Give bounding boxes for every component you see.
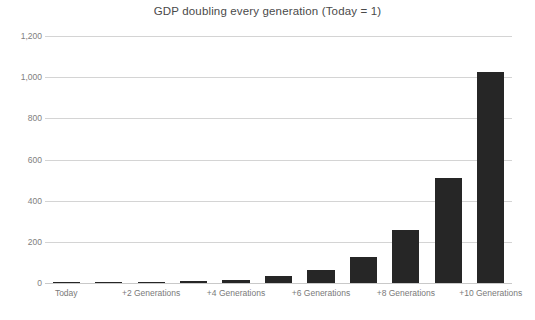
bar [307,270,334,283]
bar [435,178,462,283]
bar [350,257,377,283]
gridline-800 [45,118,512,119]
y-tick-label: 800 [0,113,42,123]
bar-chart: GDP doubling every generation (Today = 1… [0,0,535,320]
x-axis-tick-labels: Today+2 Generations+4 Generations+6 Gene… [45,288,512,302]
x-tick-label: +10 Generations [459,288,522,298]
plot-area [45,36,512,283]
bar [180,281,207,283]
y-tick-label: 0 [0,278,42,288]
bar [265,276,292,283]
y-tick-label: 200 [0,237,42,247]
bar [95,282,122,283]
bar [392,230,419,283]
chart-title: GDP doubling every generation (Today = 1… [0,5,535,17]
y-axis-tick-labels: 02004006008001,0001,200 [0,36,42,283]
gridline-1200 [45,36,512,37]
bar [53,282,80,283]
x-tick-label: +6 Generations [292,288,350,298]
gridline-600 [45,160,512,161]
gridline-0 [45,283,512,284]
y-tick-label: 1,000 [0,72,42,82]
x-tick-label: Today [55,288,78,298]
x-tick-label: +8 Generations [377,288,435,298]
y-tick-label: 400 [0,196,42,206]
bar [138,282,165,283]
gridline-1000 [45,77,512,78]
y-tick-label: 600 [0,155,42,165]
x-tick-label: +2 Generations [122,288,180,298]
y-tick-label: 1,200 [0,31,42,41]
bar [477,72,504,283]
x-tick-label: +4 Generations [207,288,265,298]
bar [222,280,249,283]
